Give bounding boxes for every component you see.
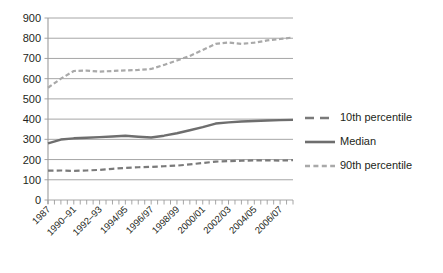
y-tick-label: 500 [23,93,41,105]
y-tick-label: 600 [23,73,41,85]
y-tick-label: 300 [23,133,41,145]
chart-container: 9008007006005004003002001000 19871990–91… [0,0,443,273]
line-chart: 9008007006005004003002001000 19871990–91… [0,0,443,273]
legend-label: 10th percentile [340,111,412,123]
chart-background [0,0,443,273]
y-tick-label: 900 [23,12,41,24]
legend-label: 90th percentile [340,159,412,171]
y-tick-label: 400 [23,113,41,125]
legend-label: Median [340,135,376,147]
y-tick-label: 200 [23,154,41,166]
y-tick-label: 0 [35,194,41,206]
y-tick-label: 700 [23,52,41,64]
y-tick-label: 800 [23,32,41,44]
y-tick-label: 100 [23,174,41,186]
